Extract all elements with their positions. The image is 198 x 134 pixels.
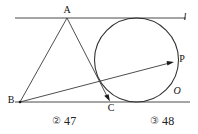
answer-value-2: 47 — [64, 115, 77, 127]
arrowhead-c — [104, 94, 110, 101]
label-point-p: P — [179, 53, 185, 64]
answer-marker-2: ② — [52, 116, 61, 126]
geometry-figure: l A B C P O ② 47 ③ 48 — [0, 0, 198, 134]
answer-options: ② 47 ③ 48 — [0, 112, 198, 134]
answer-marker-3: ③ — [150, 116, 159, 126]
label-point-a: A — [63, 4, 71, 15]
segment-ac — [67, 18, 108, 98]
label-center-o: O — [173, 85, 180, 96]
arrowhead-p — [167, 61, 174, 66]
label-point-b: B — [8, 94, 15, 105]
vertex-dot-b — [19, 101, 22, 104]
answer-value-3: 48 — [162, 115, 175, 127]
segment-ab — [20, 18, 67, 102]
label-line-l: l — [184, 11, 187, 22]
answer-option-3[interactable]: ③ 48 — [150, 115, 175, 127]
answer-option-2[interactable]: ② 47 — [52, 115, 77, 127]
circle-o — [95, 18, 179, 102]
